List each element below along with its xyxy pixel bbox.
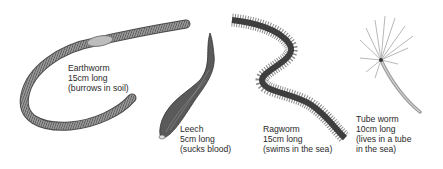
earthworm-note: (burrows in soil) [68, 83, 129, 93]
leech-length: 5cm long [180, 134, 231, 144]
tube-worm-note-1: (lives in a tube [356, 134, 411, 144]
tube-worm-label: Tube worm 10cm long (lives in a tube in … [356, 114, 411, 154]
tube-worm-note-2: in the sea) [356, 144, 411, 154]
tube-worm-illustration [360, 16, 420, 112]
leech-label: Leech 5cm long (sucks blood) [180, 124, 231, 154]
earthworm-label: Earthworm 15cm long (burrows in soil) [68, 63, 129, 93]
earthworm-length: 15cm long [68, 73, 129, 83]
tube-worm-name: Tube worm [356, 114, 411, 124]
ragworm-name: Ragworm [263, 124, 332, 134]
leech-note: (sucks blood) [180, 144, 231, 154]
leech-name: Leech [180, 124, 231, 134]
ragworm-label: Ragworm 15cm long (swims in the sea) [263, 124, 332, 154]
earthworm-name: Earthworm [68, 63, 129, 73]
ragworm-illustration [232, 20, 345, 138]
ragworm-note: (swims in the sea) [263, 144, 332, 154]
tube-worm-length: 10cm long [356, 124, 411, 134]
ragworm-length: 15cm long [263, 134, 332, 144]
